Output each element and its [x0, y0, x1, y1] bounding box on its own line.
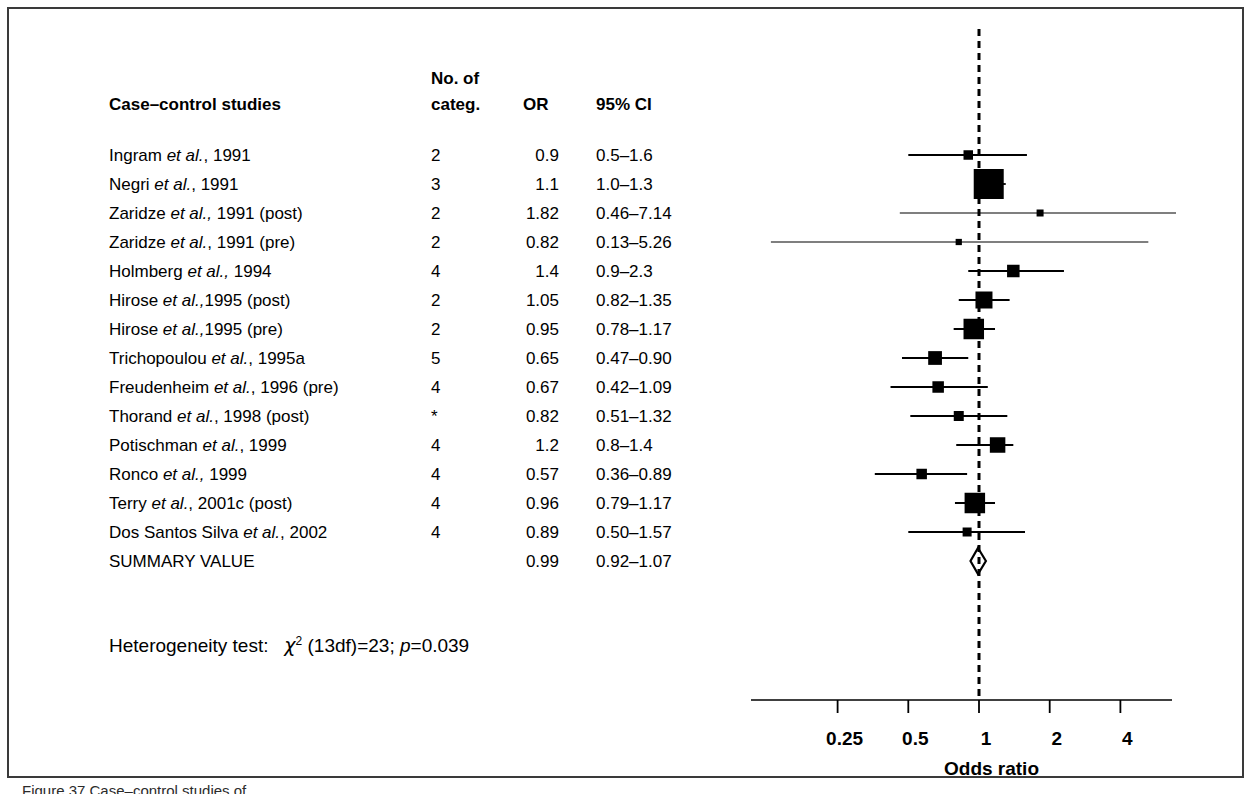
- forest-row: [908, 528, 1025, 537]
- forest-row: [956, 437, 1013, 453]
- point-estimate-marker: [974, 169, 1004, 199]
- point-estimate-marker: [954, 411, 964, 421]
- point-estimate-marker: [990, 437, 1006, 453]
- point-estimate-marker: [916, 469, 927, 480]
- point-estimate-marker: [928, 351, 942, 365]
- point-estimate-marker: [1007, 265, 1020, 278]
- point-estimate-marker: [956, 239, 962, 245]
- axis-tick-label: 0.5: [902, 728, 928, 750]
- forest-row: [954, 319, 995, 340]
- point-estimate-marker: [975, 292, 992, 309]
- point-estimate-marker: [964, 150, 974, 160]
- figure-inner: Case–control studies No. of categ. OR 95…: [9, 9, 1242, 776]
- axis-tick-label: 0.25: [826, 728, 863, 750]
- forest-row: [968, 265, 1064, 278]
- axis-tick-label: 2: [1051, 728, 1062, 750]
- forest-row: [910, 411, 1007, 421]
- forest-plot: [9, 9, 1246, 780]
- point-estimate-marker: [964, 319, 985, 340]
- axis-tick-label: 4: [1122, 728, 1133, 750]
- forest-row: [902, 351, 968, 365]
- point-estimate-marker: [1037, 210, 1044, 217]
- figure-caption: Figure 37 Case–control studies of ...: [22, 782, 1222, 794]
- forest-row: [875, 469, 967, 480]
- forest-row: [900, 210, 1176, 217]
- axis-tick-label: 1: [981, 728, 992, 750]
- forest-row: [974, 169, 1006, 199]
- forest-row: [959, 292, 1010, 309]
- figure-container: Case–control studies No. of categ. OR 95…: [0, 0, 1252, 794]
- point-estimate-marker: [963, 528, 972, 537]
- forest-row: [891, 381, 988, 393]
- forest-row: [908, 150, 1027, 160]
- forest-row: [955, 493, 995, 514]
- forest-row: [771, 239, 1148, 245]
- point-estimate-marker: [965, 493, 986, 514]
- x-axis-title: Odds ratio: [944, 758, 1039, 780]
- figure-frame: Case–control studies No. of categ. OR 95…: [7, 7, 1244, 778]
- point-estimate-marker: [932, 381, 944, 393]
